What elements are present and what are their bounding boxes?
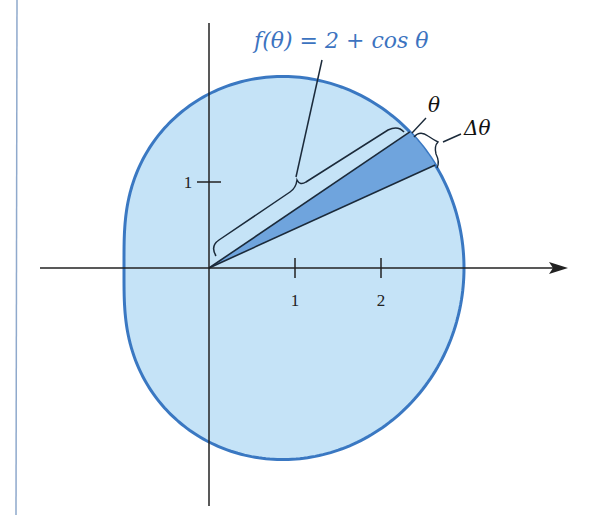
- delta-theta-label: Δθ: [463, 116, 490, 140]
- polar-area-diagram: 1 2 1 f(θ) = 2 + cos θ θ Δθ: [0, 0, 591, 515]
- theta-label: θ: [428, 93, 440, 117]
- margin-rule: [16, 0, 17, 515]
- y-tick-label-1: 1: [184, 173, 193, 192]
- x-tick-label-1: 1: [291, 291, 300, 310]
- theta-leader: [412, 118, 426, 133]
- x-tick-label-2: 2: [377, 291, 386, 310]
- function-label: f(θ) = 2 + cos θ: [252, 28, 429, 53]
- delta-theta-leader: [443, 134, 461, 142]
